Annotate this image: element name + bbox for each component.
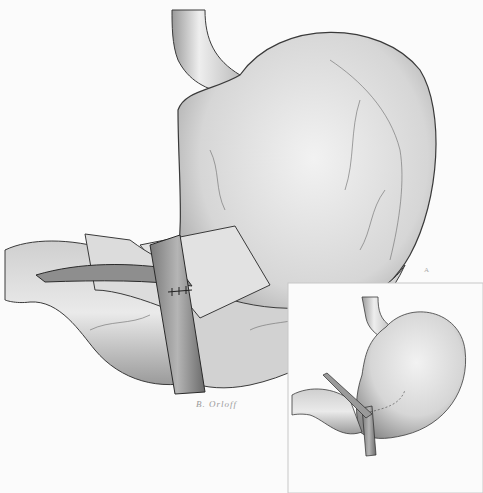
main-illustration bbox=[0, 0, 483, 493]
artist-signature: B. Orloff bbox=[196, 399, 237, 409]
illustration-canvas: B. Orloff A bbox=[0, 0, 483, 493]
corner-mark: A bbox=[424, 266, 429, 274]
